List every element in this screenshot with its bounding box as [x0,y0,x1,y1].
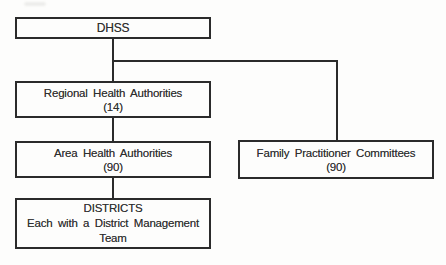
node-area-health-authorities: Area Health Authorities (90) [15,141,211,178]
node-districts-title: DISTRICTS [84,201,143,216]
node-regional-health-authorities: Regional Health Authorities (14) [15,81,211,118]
node-area-count: (90) [103,160,123,174]
node-family-title: Family Practitioner Committees [257,146,416,160]
node-regional-count: (14) [103,100,123,114]
node-area-title: Area Health Authorities [54,146,172,160]
node-regional-title: Regional Health Authorities [44,86,182,100]
node-districts-subtitle-line2: Team [99,231,126,246]
node-family-practitioner-committees: Family Practitioner Committees (90) [238,140,434,179]
node-dhss-label: DHSS [97,21,130,35]
node-family-count: (90) [326,160,346,174]
connector-regional-to-area [112,118,114,141]
connector-branch-to-family [336,62,338,140]
org-chart-canvas: DHSS Regional Health Authorities (14) Ar… [0,0,446,265]
scan-artifact [24,2,46,6]
connector-area-to-districts [112,178,114,198]
node-dhss: DHSS [15,17,211,39]
connector-branch-horizontal [112,60,338,62]
node-districts-subtitle-line1: Each with a District Management [27,216,199,231]
node-districts: DISTRICTS Each with a District Managemen… [15,198,211,249]
